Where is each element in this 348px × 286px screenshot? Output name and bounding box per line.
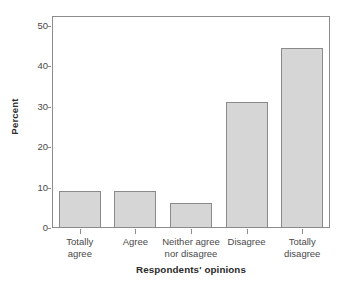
y-axis-title-text: Percent: [9, 98, 20, 134]
x-tick-label: Neither agreenor disagree: [162, 236, 220, 259]
x-tick-label-line: Neither agree: [162, 236, 220, 247]
bar-chart: Percent 01020304050 TotallyagreeAgreeNei…: [0, 0, 348, 286]
bar: [59, 191, 101, 228]
x-tick-label: Disagree: [228, 236, 266, 248]
x-tick-label-line: nor disagree: [162, 248, 220, 260]
x-tick-label-line: agree: [66, 248, 93, 260]
x-axis-title: Respondents' opinions: [52, 264, 330, 275]
y-tick-mark: [47, 147, 51, 148]
x-tick-label-line: Agree: [123, 236, 148, 247]
y-tick-mark: [47, 66, 51, 67]
bars-layer: [52, 16, 330, 228]
x-tick-label: Totallyagree: [66, 236, 93, 259]
y-tick-label: 50: [24, 21, 48, 31]
x-tick-mark: [247, 229, 248, 234]
x-tick-label-line: disagree: [284, 248, 320, 260]
bar: [226, 102, 268, 228]
x-tick-label-line: Totally: [289, 236, 316, 247]
x-tick-label: Totallydisagree: [284, 236, 320, 259]
y-tick-label: 20: [24, 142, 48, 152]
x-tick-mark: [135, 229, 136, 234]
y-tick-label: 0: [24, 223, 48, 233]
x-tick-label-line: Totally: [66, 236, 93, 247]
y-axis-title: Percent: [2, 0, 26, 232]
x-tick-mark: [191, 229, 192, 234]
x-tick-mark: [80, 229, 81, 234]
bar: [281, 48, 323, 228]
bar: [114, 191, 156, 228]
y-tick-label: 10: [24, 183, 48, 193]
y-tick-mark: [47, 26, 51, 27]
x-tick-label: Agree: [123, 236, 148, 248]
x-tick-mark: [302, 229, 303, 234]
bar: [170, 203, 212, 228]
y-tick-label: 40: [24, 62, 48, 72]
y-tick-mark: [47, 188, 51, 189]
y-tick-mark: [47, 228, 51, 229]
x-tick-label-line: Disagree: [228, 236, 266, 247]
y-tick-mark: [47, 107, 51, 108]
y-axis-ticklabels: 01020304050: [24, 0, 48, 286]
y-tick-label: 30: [24, 102, 48, 112]
